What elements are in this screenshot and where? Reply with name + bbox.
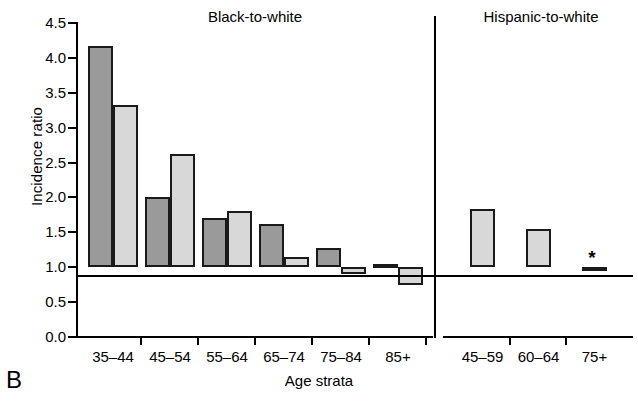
x-tick	[565, 338, 567, 345]
y-tick-label: 2.5	[45, 154, 66, 171]
bar-black-45–54-dark	[145, 197, 170, 267]
y-tick-label: 1.0	[45, 258, 66, 275]
bar-black-75–84-light	[341, 267, 366, 274]
x-tick-label: 60–64	[518, 348, 560, 365]
panel-title-hispanic-to-white: Hispanic-to-white	[483, 8, 598, 25]
y-tick-label: 1.5	[45, 223, 66, 240]
x-tick-label: 35–44	[92, 348, 134, 365]
y-tick-label: 4.5	[45, 14, 66, 31]
y-tick-label: 3.0	[45, 119, 66, 136]
bar-black-65–74-light	[284, 257, 309, 267]
reference-line-1	[76, 275, 633, 277]
y-tick-label: 0.0	[45, 328, 66, 345]
x-tick-label: 75–84	[320, 348, 362, 365]
bar-black-55–64-light	[227, 211, 252, 267]
y-tick-3.5	[68, 92, 76, 94]
x-tick	[254, 338, 256, 345]
x-tick-label: 45–59	[462, 348, 504, 365]
incidence-ratio-bar-chart: Incidence ratio 0.00.51.01.52.02.53.03.5…	[0, 0, 638, 407]
x-tick	[140, 338, 142, 345]
asterisk-annotation: *	[588, 248, 595, 267]
x-tick	[425, 338, 427, 345]
bar-black-45–54-light	[170, 154, 195, 267]
bar-hispanic-60–64	[526, 229, 551, 267]
y-tick-3.0	[68, 127, 76, 129]
y-tick-1.5	[68, 231, 76, 233]
x-tick	[368, 338, 370, 345]
x-tick-label: 65–74	[263, 348, 305, 365]
bar-black-35–44-light	[113, 105, 138, 267]
x-axis-title: Age strata	[0, 372, 638, 389]
y-tick-label: 0.5	[45, 293, 66, 310]
bar-black-35–44-dark	[88, 46, 113, 267]
y-tick-1.0	[68, 266, 76, 268]
x-tick-label: 85+	[385, 348, 410, 365]
y-tick-label: 2.0	[45, 188, 66, 205]
x-tick	[311, 338, 313, 345]
x-tick-label: 75+	[582, 348, 607, 365]
y-tick-label: 3.5	[45, 84, 66, 101]
panel-letter-label: B	[6, 368, 22, 392]
x-tick	[197, 338, 199, 345]
y-tick-0.5	[68, 301, 76, 303]
y-tick-0.0	[68, 336, 76, 338]
y-tick-label: 4.0	[45, 49, 66, 66]
y-tick-4.5	[68, 22, 76, 24]
x-tick	[509, 338, 511, 345]
y-axis-title: Incidence ratio	[28, 57, 45, 257]
bar-black-85+-dark	[373, 264, 398, 268]
y-axis-line	[76, 22, 78, 337]
bar-black-75–84-dark	[316, 248, 341, 268]
x-axis-line-right	[443, 336, 633, 338]
y-tick-2.0	[68, 196, 76, 198]
y-tick-4.0	[68, 57, 76, 59]
panel-divider	[434, 16, 436, 338]
x-tick-label: 55–64	[206, 348, 248, 365]
y-tick-2.5	[68, 162, 76, 164]
x-tick-label: 45–54	[149, 348, 191, 365]
bar-black-55–64-dark	[202, 218, 227, 267]
bar-black-65–74-dark	[259, 224, 284, 267]
panel-title-black-to-white: Black-to-white	[208, 8, 302, 25]
bar-hispanic-45–59	[470, 209, 495, 268]
